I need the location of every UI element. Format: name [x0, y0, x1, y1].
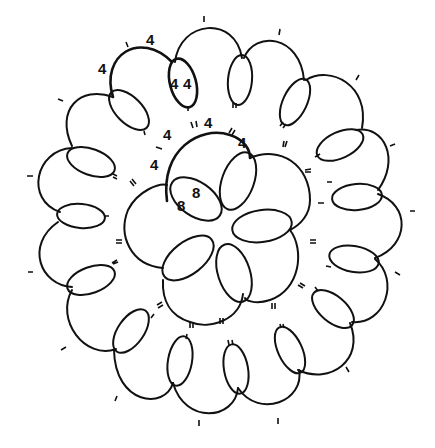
outer-ring — [56, 202, 106, 230]
outer-ring — [63, 259, 119, 301]
outer-chain — [114, 350, 173, 399]
stitch-count-label: 4 — [204, 115, 212, 130]
stitch-count-label: 4 — [163, 127, 171, 142]
center-chain-right — [250, 154, 310, 230]
outer-round — [27, 16, 415, 426]
stitch-count-label: 4 — [98, 61, 106, 76]
stitch-count-label: 4 — [150, 157, 158, 172]
outer-chain — [67, 94, 113, 146]
center-rosette — [116, 121, 324, 328]
stitch-count-label: 4 — [146, 32, 154, 47]
picot — [116, 121, 324, 328]
stitch-count-label: 4 — [183, 76, 191, 91]
outer-chain — [175, 28, 242, 62]
outer-ring — [220, 342, 252, 395]
picot — [27, 16, 415, 426]
outer-ring — [331, 182, 383, 212]
outer-chain — [352, 259, 387, 322]
center-ring-lower-right — [210, 240, 259, 307]
center-ring-right — [230, 206, 294, 246]
outer-chain — [306, 75, 363, 128]
stitch-count-label: 8 — [177, 198, 185, 213]
center-chain-left — [125, 185, 167, 268]
outer-chain — [173, 383, 238, 413]
outer-chain — [298, 323, 354, 374]
tatting-diagram — [0, 0, 435, 448]
outer-chain — [375, 194, 402, 258]
stitch-count-label: 4 — [170, 76, 178, 91]
outer-ring — [226, 54, 254, 106]
outer-ring — [164, 334, 196, 387]
stitch-count-label: 8 — [192, 185, 200, 200]
stitch-count-label: 4 — [238, 135, 246, 150]
outer-chain — [356, 130, 389, 190]
outer-ring — [269, 322, 312, 377]
outer-chain — [67, 290, 116, 351]
outer-ring — [274, 74, 317, 129]
center-chain-bottom — [163, 280, 243, 325]
outer-ring — [327, 242, 381, 276]
outer-chain — [39, 222, 72, 287]
center-ring-lower-left — [155, 227, 222, 289]
